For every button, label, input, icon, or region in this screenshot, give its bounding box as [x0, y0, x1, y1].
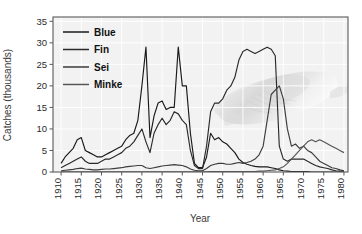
x-tick-label: 1965 [274, 178, 285, 199]
x-tick-label: 1925 [113, 178, 124, 199]
x-tick-label: 1945 [194, 178, 205, 199]
legend-label-blue: Blue [94, 27, 116, 38]
y-tick-label: 30 [36, 37, 47, 48]
legend-label-fin: Fin [94, 44, 109, 55]
x-tick-label: 1915 [72, 178, 83, 199]
x-tick-label: 1910 [52, 178, 63, 199]
y-tick-label: 15 [36, 102, 47, 113]
y-tick-label: 20 [36, 80, 47, 91]
x-tick-label: 1970 [295, 178, 306, 199]
x-tick-label: 1940 [173, 178, 184, 199]
y-tick-label: 35 [36, 16, 47, 27]
legend-label-minke: Minke [94, 79, 123, 90]
x-tick-label: 1930 [133, 178, 144, 199]
x-tick-label: 1920 [92, 178, 103, 199]
chart-figure: 1910191519201925193019351940194519501955… [0, 0, 362, 234]
x-tick-label: 1935 [153, 178, 164, 199]
whale-catches-line-chart: 1910191519201925193019351940194519501955… [0, 0, 362, 234]
y-tick-label: 0 [42, 166, 47, 177]
y-tick-label: 5 [42, 145, 47, 156]
legend-label-sei: Sei [94, 62, 109, 73]
x-tick-label: 1980 [335, 178, 346, 199]
y-tick-label: 10 [36, 123, 47, 134]
y-axis-title: Catches (thousands) [2, 49, 13, 141]
y-tick-label: 25 [36, 59, 47, 70]
x-tick-label: 1960 [254, 178, 265, 199]
x-tick-label: 1950 [214, 178, 225, 199]
x-tick-label: 1975 [315, 178, 326, 199]
x-tick-label: 1955 [234, 178, 245, 199]
x-axis-title: Year [190, 213, 211, 224]
